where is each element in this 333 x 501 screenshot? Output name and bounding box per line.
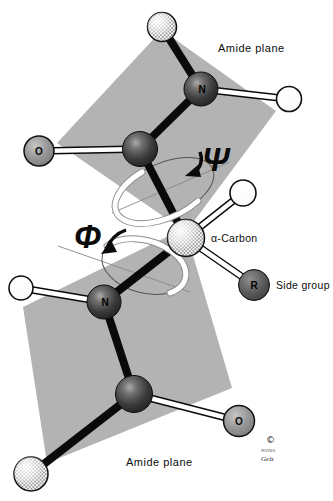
amide-plane-bottom-label: Amide plane xyxy=(126,456,193,468)
nitrogen-top-label: N xyxy=(198,84,205,95)
alpha-carbon-label: α-Carbon xyxy=(211,232,257,244)
side-group-sphere: R xyxy=(239,270,270,301)
oxygen-top-label: O xyxy=(35,146,43,157)
nitrogen-bottom-sphere: N xyxy=(87,285,121,319)
amide-plane-top-label: Amide plane xyxy=(218,42,285,54)
carbonyl-carbon-bottom-sphere xyxy=(116,376,153,413)
psi-symbol: Ψ xyxy=(202,141,231,178)
alpha-carbon-bottom-sphere xyxy=(14,457,48,491)
oxygen-bottom-label: O xyxy=(235,416,243,427)
oxygen-top-sphere: O xyxy=(24,136,54,166)
oxygen-bottom-sphere: O xyxy=(224,406,255,437)
peptide-backbone-figure: N O R N O xyxy=(0,0,333,501)
hydrogen-top-sphere xyxy=(277,87,302,112)
nitrogen-top-sphere: N xyxy=(184,72,218,106)
signature-line2: Geis xyxy=(261,455,274,463)
hydrogen-alpha-sphere xyxy=(230,180,256,206)
copyright-symbol: © xyxy=(266,435,275,445)
side-group-label: Side group xyxy=(276,279,330,291)
alpha-carbon-sphere xyxy=(168,220,205,257)
phi-symbol: Φ xyxy=(74,218,101,255)
side-group-r-label: R xyxy=(250,280,258,291)
hydrogen-bottom-sphere xyxy=(9,276,33,300)
carbonyl-carbon-top-sphere xyxy=(123,132,158,167)
phi-psi-diagram: N O R N O xyxy=(0,0,333,501)
nitrogen-bottom-label: N xyxy=(101,297,108,308)
alpha-carbon-top-sphere xyxy=(148,13,177,42)
signature-line1: IRVING xyxy=(261,449,275,453)
